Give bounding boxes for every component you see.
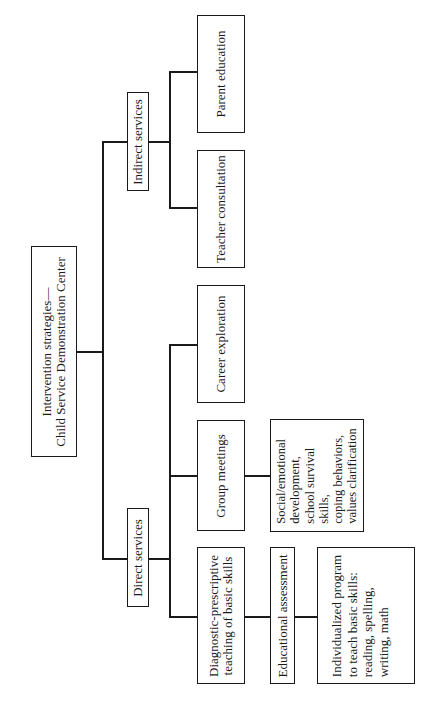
connector-indirect-out — [149, 141, 171, 143]
connector-trunk-indirect — [102, 141, 128, 143]
direct-services-node: Direct services — [127, 508, 149, 607]
group-detail-line-5: coping behaviors, — [331, 428, 345, 523]
root-label-line-2: Child Service Demonstration Center — [54, 257, 68, 447]
parent-education-node: Parent education — [197, 15, 245, 133]
indirect-services-node: Indirect services — [127, 92, 149, 191]
connector-main-trunk — [102, 142, 104, 560]
connector-direct-vertical — [169, 344, 171, 618]
group-detail-line-4: skills, — [317, 428, 331, 523]
group-detail-line-1: Social/emotional — [274, 428, 288, 523]
connector-indirect-vertical — [169, 71, 171, 208]
connector-to-parent — [169, 71, 197, 73]
connector-to-group — [169, 475, 197, 477]
parent-education-label: Parent education — [214, 31, 228, 118]
diagnostic-line-2: teaching of basic skills — [221, 554, 235, 676]
connector-to-career — [169, 344, 197, 346]
connector-direct-out — [149, 558, 171, 560]
program-line-2: to teach basic skills: — [345, 554, 361, 676]
group-detail-label: Social/emotional development, school sur… — [274, 428, 360, 523]
educational-assessment-label: Educational assessment — [276, 554, 290, 677]
teacher-consultation-node: Teacher consultation — [197, 150, 245, 268]
individualized-program-label: Individualized program to teach basic sk… — [329, 554, 391, 676]
connector-root-trunk — [77, 351, 104, 353]
individualized-program-node: Individualized program to teach basic sk… — [317, 547, 415, 684]
career-exploration-label: Career exploration — [214, 295, 228, 392]
program-line-4: writing, math — [376, 554, 392, 676]
root-label-line-1: Intervention strategies— — [40, 257, 54, 447]
connector-to-diagnostic — [169, 616, 197, 618]
teacher-consultation-label: Teacher consultation — [214, 155, 228, 263]
connector-to-teacher — [169, 207, 197, 209]
connector-assessment-program — [295, 616, 318, 618]
connector-trunk-direct — [102, 558, 128, 560]
connector-group-detail — [245, 475, 271, 477]
group-meetings-node: Group meetings — [197, 420, 245, 531]
root-label: Intervention strategies— Child Service D… — [40, 257, 68, 447]
group-detail-line-2: development, — [288, 428, 302, 523]
group-detail-line-3: school survival — [303, 428, 317, 523]
diagnostic-prescriptive-node: Diagnostic-prescriptive teaching of basi… — [197, 547, 245, 684]
career-exploration-node: Career exploration — [197, 285, 245, 403]
group-detail-node: Social/emotional development, school sur… — [270, 419, 364, 532]
program-line-3: reading, spelling, — [360, 554, 376, 676]
direct-services-label: Direct services — [131, 519, 145, 597]
connector-diagnostic-assessment — [245, 616, 271, 618]
group-meetings-label: Group meetings — [214, 434, 228, 517]
root-node: Intervention strategies— Child Service D… — [31, 246, 77, 457]
indirect-services-label: Indirect services — [131, 99, 145, 185]
diagnostic-prescriptive-label: Diagnostic-prescriptive teaching of basi… — [207, 554, 235, 676]
diagnostic-line-1: Diagnostic-prescriptive — [207, 554, 221, 676]
educational-assessment-node: Educational assessment — [270, 547, 295, 684]
program-line-1: Individualized program — [329, 554, 345, 676]
group-detail-line-6: values clarification — [346, 428, 360, 523]
